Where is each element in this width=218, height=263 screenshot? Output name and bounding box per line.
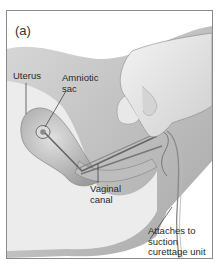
label-vaginal-canal: Vaginal canal bbox=[90, 184, 121, 205]
panel-label: (a) bbox=[15, 23, 31, 38]
label-amniotic-sac: Amniotic sac bbox=[62, 73, 98, 94]
label-uterus-text: Uterus bbox=[13, 71, 41, 82]
label-amniotic-sac-line2: sac bbox=[62, 84, 98, 95]
label-amniotic-sac-line1: Amniotic bbox=[62, 73, 98, 84]
label-vaginal-canal-line2: canal bbox=[90, 195, 121, 206]
label-suction-unit: Attaches to suction curettage unit bbox=[148, 226, 206, 258]
label-uterus: Uterus bbox=[13, 71, 41, 82]
procedure-illustration bbox=[7, 11, 212, 258]
figure-panel: (a) Uterus Amniotic sac Vaginal canal At… bbox=[6, 10, 213, 259]
label-vaginal-canal-line1: Vaginal bbox=[90, 184, 121, 195]
label-suction-unit-line1: Attaches to bbox=[148, 226, 206, 237]
label-suction-unit-line3: curettage unit bbox=[148, 247, 206, 258]
